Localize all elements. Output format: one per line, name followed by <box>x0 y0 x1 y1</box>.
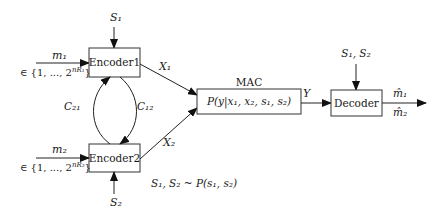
m1-set-label: ∈ {1, ..., 2nR₁} <box>20 66 91 78</box>
x1-label: X₁ <box>158 60 171 73</box>
x2-arrow <box>140 108 197 159</box>
conference-link-c21 <box>94 77 111 144</box>
encoder2-label: Encoder2 <box>89 152 140 164</box>
m1-label: m₁ <box>52 49 67 62</box>
decoder-state-label: S₁, S₂ <box>341 47 370 59</box>
m2-hat-label: m̂₂ <box>393 106 407 118</box>
mac-caption: MAC <box>236 76 262 88</box>
decoder-label: Decoder <box>334 97 380 109</box>
s2-label: S₂ <box>110 196 122 209</box>
s1-label: S₁ <box>110 11 122 24</box>
encoder1-block: Encoder1 <box>89 48 140 77</box>
x2-label: X₂ <box>162 136 175 149</box>
c12-label: C₁₂ <box>137 100 153 112</box>
mac-channel-label: P(y|x₁, x₂, s₁, s₂) <box>206 95 291 109</box>
encoder1-label: Encoder1 <box>89 56 140 68</box>
m2-label: m₂ <box>52 143 67 156</box>
state-distribution-annotation: S₁, S₂ ~ P(s₁, s₂) <box>151 177 237 189</box>
encoder2-block: Encoder2 <box>89 144 140 172</box>
mac-block: P(y|x₁, x₂, s₁, s₂) <box>197 89 301 114</box>
diagram-canvas: S₁ m₁ ∈ {1, ..., 2nR₁} Encoder1 Encoder2… <box>0 0 443 221</box>
c21-label: C₂₁ <box>64 100 80 112</box>
decoder-block: Decoder <box>331 90 382 116</box>
m1-hat-label: m̂₁ <box>393 87 407 99</box>
m2-set-label: ∈ {1, ..., 2nR₂} <box>20 161 91 173</box>
conference-link-c12 <box>120 77 137 144</box>
y-label: Y <box>303 87 312 100</box>
